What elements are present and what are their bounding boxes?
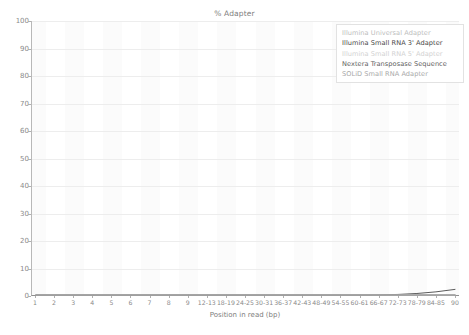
gridline <box>32 214 459 215</box>
legend-item[interactable]: Illumina Small RNA 5' Adapter <box>342 49 459 59</box>
x-axis-tick-label: 9 <box>186 299 190 306</box>
x-axis: 12345678912-1318-1924-2530-3136-3742-434… <box>31 296 459 312</box>
y-axis-tick-mark <box>28 49 31 50</box>
background-band <box>32 21 46 295</box>
y-axis: 0102030405060708090100 <box>0 21 29 296</box>
y-axis-tick-mark <box>28 159 31 160</box>
x-axis-tick-mark <box>130 296 131 298</box>
y-axis-tick-mark <box>28 76 31 77</box>
y-axis-tick-mark <box>28 131 31 132</box>
y-axis-tick-label: 30 <box>3 210 29 218</box>
background-band <box>179 21 198 295</box>
y-axis-tick-label: 20 <box>3 237 29 245</box>
y-axis-tick-label: 60 <box>3 127 29 135</box>
x-axis-tick-label: 72-73 <box>389 299 407 306</box>
y-axis-tick-mark <box>28 269 31 270</box>
x-axis-tick-mark <box>302 296 303 298</box>
x-axis-tick-label: 2 <box>52 299 56 306</box>
x-axis-tick-mark <box>73 296 74 298</box>
x-axis-tick-label: 36-37 <box>274 299 292 306</box>
background-band <box>103 21 122 295</box>
x-axis-tick-label: 1 <box>33 299 37 306</box>
chart-title: % Adapter <box>0 9 469 18</box>
x-axis-tick-mark <box>169 296 170 298</box>
x-axis-tick-mark <box>150 296 151 298</box>
gridline <box>32 159 459 160</box>
x-axis-tick-mark <box>360 296 361 298</box>
y-axis-tick-mark <box>28 296 31 297</box>
x-axis-tick-mark <box>264 296 265 298</box>
gridline <box>32 104 459 105</box>
y-axis-tick-label: 80 <box>3 72 29 80</box>
series-line <box>36 289 455 295</box>
x-axis-tick-mark <box>111 296 112 298</box>
x-axis-tick-label: 66-67 <box>370 299 388 306</box>
background-band <box>141 21 160 295</box>
y-axis-tick-label: 0 <box>3 292 29 300</box>
y-axis-tick-mark <box>28 241 31 242</box>
y-axis-tick-mark <box>28 186 31 187</box>
x-axis-tick-mark <box>54 296 55 298</box>
x-axis-tick-label: 60-61 <box>351 299 369 306</box>
x-axis-tick-label: 6 <box>128 299 132 306</box>
x-axis-tick-label: 7 <box>148 299 152 306</box>
background-band <box>256 21 275 295</box>
gridline <box>32 131 459 132</box>
x-axis-tick-label: 8 <box>167 299 171 306</box>
y-axis-tick-label: 100 <box>3 17 29 25</box>
x-axis-tick-mark <box>245 296 246 298</box>
legend-item[interactable]: Nextera Transposase Sequence <box>342 59 459 69</box>
x-axis-tick-mark <box>226 296 227 298</box>
background-band <box>65 21 84 295</box>
chart-legend: Illumina Universal AdapterIllumina Small… <box>336 24 464 83</box>
y-axis-tick-mark <box>28 214 31 215</box>
y-axis-tick-mark <box>28 104 31 105</box>
legend-item[interactable]: SOLiD Small RNA Adapter <box>342 69 459 79</box>
x-axis-tick-mark <box>436 296 437 298</box>
x-axis-title: Position in read (bp) <box>31 311 459 319</box>
x-axis-tick-label: 84-85 <box>427 299 445 306</box>
y-axis-tick-label: 90 <box>3 45 29 53</box>
gridline <box>32 269 459 270</box>
legend-item[interactable]: Illumina Small RNA 3' Adapter <box>342 38 459 48</box>
x-axis-tick-label: 54-55 <box>331 299 349 306</box>
x-axis-tick-label: 5 <box>109 299 113 306</box>
gridline <box>32 186 459 187</box>
x-axis-tick-label: 48-49 <box>312 299 330 306</box>
x-axis-tick-mark <box>283 296 284 298</box>
x-axis-tick-mark <box>321 296 322 298</box>
y-axis-tick-label: 50 <box>3 155 29 163</box>
x-axis-tick-mark <box>35 296 36 298</box>
y-axis-tick-label: 70 <box>3 100 29 108</box>
x-axis-tick-label: 3 <box>71 299 75 306</box>
x-axis-tick-mark <box>417 296 418 298</box>
x-axis-tick-mark <box>92 296 93 298</box>
gridline <box>32 241 459 242</box>
x-axis-tick-label: 90 <box>451 299 459 306</box>
background-band <box>294 21 313 295</box>
x-axis-tick-mark <box>379 296 380 298</box>
x-axis-tick-label: 12-13 <box>198 299 216 306</box>
gridline <box>32 21 459 22</box>
x-axis-tick-mark <box>207 296 208 298</box>
x-axis-tick-label: 78-79 <box>408 299 426 306</box>
x-axis-tick-mark <box>188 296 189 298</box>
x-axis-tick-label: 4 <box>90 299 94 306</box>
background-band <box>217 21 236 295</box>
y-axis-tick-mark <box>28 21 31 22</box>
x-axis-tick-label: 24-25 <box>236 299 254 306</box>
x-axis-tick-mark <box>398 296 399 298</box>
y-axis-tick-label: 40 <box>3 182 29 190</box>
legend-item[interactable]: Illumina Universal Adapter <box>342 28 459 38</box>
y-axis-tick-label: 10 <box>3 265 29 273</box>
x-axis-tick-label: 18-19 <box>217 299 235 306</box>
x-axis-tick-label: 42-43 <box>293 299 311 306</box>
x-axis-tick-label: 30-31 <box>255 299 273 306</box>
adapter-content-chart: % Adapter 0102030405060708090100 1234567… <box>0 0 469 335</box>
x-axis-tick-mark <box>455 296 456 298</box>
x-axis-tick-mark <box>340 296 341 298</box>
